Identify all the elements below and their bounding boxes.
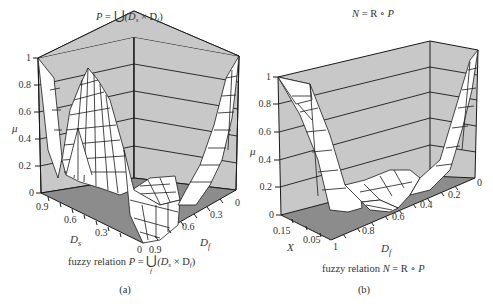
panel-a-df-label: Df <box>199 236 212 251</box>
panel-b-z-label: μ <box>249 145 256 157</box>
panel-b-z-tick-0.8: 0.8 <box>259 98 272 109</box>
panel-a-caption-union-index: f <box>150 267 153 275</box>
panel-a: 1 0.8 0.6 0.4 0.2 0 μ 0.9 0.6 0.3 0 Ds <box>11 8 240 296</box>
panel-b-x-tick-0.05: 0.05 <box>303 234 321 245</box>
panel-b-z-tick-1: 1 <box>266 71 271 82</box>
panel-b-z-tick-0.2: 0.2 <box>260 181 273 192</box>
panel-b-df-tick-0.6: 0.6 <box>392 211 405 222</box>
panel-b-df-label: Df <box>380 242 393 257</box>
panel-a-df-tick-0.6: 0.6 <box>182 221 195 232</box>
panel-a-z-tick-0.6: 0.6 <box>19 106 32 117</box>
panel-b-label: (b) <box>358 284 371 296</box>
panel-b-z-tick-0: 0 <box>269 209 274 220</box>
panel-b: 1 0.8 0.6 0.4 0.2 0 μ 0.15 0.05 X 1 0.8 <box>249 8 482 296</box>
panel-a-z-tick-1: 1 <box>26 52 31 63</box>
panel-a-z-label: μ <box>11 122 18 134</box>
panel-b-df-tick-0.4: 0.4 <box>420 199 433 210</box>
panel-a-ds-tick-0.6: 0.6 <box>64 214 77 225</box>
panel-a-df-tick-0.3: 0.3 <box>210 209 223 220</box>
panel-a-z-tick-0.2: 0.2 <box>19 160 32 171</box>
panel-a-df-tick-0: 0 <box>235 197 240 208</box>
panel-b-x-tick-0.15: 0.15 <box>273 225 291 236</box>
panel-a-ds-tick-0: 0 <box>137 244 142 255</box>
panel-b-df-tick-0.2: 0.2 <box>448 189 461 200</box>
panel-a-caption: fuzzy relation P = ⋃(Ds × Df) <box>68 253 196 269</box>
panel-b-title: N = R ∘ P <box>351 8 395 19</box>
panel-a-ds-tick-0.3: 0.3 <box>95 227 108 238</box>
figure-canvas: 1 0.8 0.6 0.4 0.2 0 μ 0.9 0.6 0.3 0 Ds <box>0 0 493 306</box>
panel-b-df-tick-0: 0 <box>477 177 482 188</box>
panel-b-df-tick-0.8: 0.8 <box>362 225 375 236</box>
panel-a-z-tick-0.8: 0.8 <box>19 79 32 90</box>
panel-b-z-tick-0.4: 0.4 <box>259 154 272 165</box>
panel-a-ds-tick-0.9: 0.9 <box>36 201 49 212</box>
panel-a-z-tick-0: 0 <box>29 187 34 198</box>
panel-b-df-tick-1: 1 <box>333 241 338 252</box>
panel-a-label: (a) <box>119 284 131 296</box>
panel-a-title: P = ⋃(Ds × Df) <box>95 8 163 24</box>
panel-a-z-tick-0.4: 0.4 <box>19 133 32 144</box>
panel-b-caption: fuzzy relation N = R ∘ P <box>322 263 425 274</box>
panel-b-x-label: X <box>286 241 295 253</box>
panel-a-ds-label: Ds <box>69 233 81 248</box>
panel-b-z-tick-0.6: 0.6 <box>259 126 272 137</box>
